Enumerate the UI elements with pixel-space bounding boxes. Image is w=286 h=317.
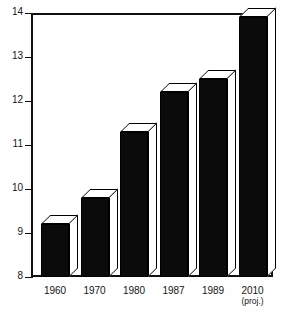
y-axis-tick: [25, 101, 33, 102]
y-axis-label: 13: [0, 51, 23, 61]
x-axis-label-year: 1970: [83, 285, 105, 296]
bar-side-face: [69, 214, 78, 276]
bar: [160, 83, 197, 277]
bar: [81, 189, 118, 277]
y-axis-tick: [25, 57, 33, 58]
bar: [239, 8, 276, 277]
bar-side-face: [227, 69, 236, 277]
bar-chart: 891011121314 196019701980198719892010(pr…: [0, 0, 286, 317]
x-axis-label-year: 1980: [123, 285, 145, 296]
bar-front-face: [41, 224, 69, 277]
bar-front-face: [81, 198, 109, 277]
bar-side-face: [188, 82, 197, 276]
y-axis-tick: [25, 13, 33, 14]
bar-front-face: [199, 79, 227, 277]
bar-side-face: [267, 8, 276, 277]
y-axis-label: 8: [0, 271, 23, 281]
bar: [41, 215, 78, 277]
x-axis-label-year: 1987: [162, 285, 184, 296]
bar-front-face: [120, 132, 148, 277]
y-axis-tick: [25, 233, 33, 234]
y-axis-tick: [25, 277, 33, 278]
y-axis-label: 14: [0, 7, 23, 17]
bar-side-face: [148, 122, 157, 277]
y-axis-label: 11: [0, 139, 23, 149]
bar-side-face: [109, 188, 118, 277]
y-axis-tick: [25, 189, 33, 190]
bar-front-face: [239, 17, 267, 277]
bar-front-face: [160, 92, 188, 277]
bar: [199, 70, 236, 277]
y-axis-tick: [25, 145, 33, 146]
x-axis-label-year: 1960: [44, 285, 66, 296]
y-axis-label: 10: [0, 183, 23, 193]
y-axis-label: 12: [0, 95, 23, 105]
x-axis-label-note: (proj.): [230, 296, 276, 306]
x-axis-label-year: 1989: [202, 285, 224, 296]
y-axis-label: 9: [0, 227, 23, 237]
x-axis-label-year: 2010: [241, 285, 263, 296]
bar: [120, 123, 157, 277]
x-axis-label: 2010(proj.): [230, 285, 276, 306]
